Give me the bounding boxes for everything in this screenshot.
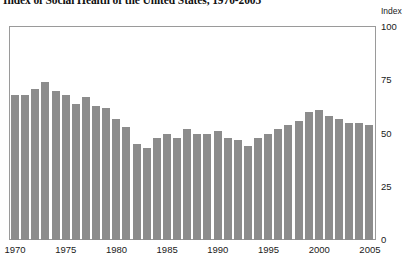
bar [295, 121, 303, 240]
bar [82, 97, 90, 240]
y-axis-tick-label: 100 [381, 22, 397, 32]
bar [193, 134, 201, 241]
bar-series [10, 27, 375, 240]
x-axis-tick-label: 1975 [55, 244, 76, 255]
bar [52, 91, 60, 240]
bar [335, 119, 343, 240]
bar [365, 125, 373, 240]
bar [244, 146, 252, 240]
bar [112, 119, 120, 240]
x-axis-tick-label: 1970 [4, 244, 25, 255]
bar [153, 138, 161, 240]
x-axis-tick-label: 1995 [258, 244, 279, 255]
y-axis-tick-label: 0 [381, 235, 386, 245]
chart-title: Index of Social Health of the United Sta… [3, 0, 261, 6]
bar [274, 129, 282, 240]
bar [325, 116, 333, 240]
bar [11, 95, 19, 240]
x-axis-tick-label: 2005 [359, 244, 380, 255]
bar [224, 138, 232, 240]
x-axis-tick-label: 1980 [106, 244, 127, 255]
bar [72, 104, 80, 240]
bar [264, 134, 272, 241]
y-axis-unit-caption: Index [381, 6, 402, 16]
x-axis-tick-label: 2000 [309, 244, 330, 255]
x-axis-tick-label: 1990 [207, 244, 228, 255]
bar [163, 134, 171, 241]
bar [183, 129, 191, 240]
bar [254, 138, 262, 240]
bar [31, 89, 39, 240]
y-axis-tick-label: 50 [381, 129, 392, 139]
bar [355, 123, 363, 240]
y-axis-tick-label: 75 [381, 75, 392, 85]
bar [284, 125, 292, 240]
bar [62, 95, 70, 240]
bar [143, 148, 151, 240]
bar [305, 112, 313, 240]
y-axis-tick-label: 25 [381, 182, 392, 192]
bar [41, 82, 49, 240]
bar [122, 127, 130, 240]
bar [234, 140, 242, 240]
bar [21, 95, 29, 240]
bar [133, 144, 141, 240]
bar [203, 134, 211, 241]
bar [214, 131, 222, 240]
bar [173, 138, 181, 240]
bar [315, 110, 323, 240]
bar [345, 123, 353, 240]
bar [102, 108, 110, 240]
bar [92, 106, 100, 240]
x-axis-tick-label: 1985 [157, 244, 178, 255]
